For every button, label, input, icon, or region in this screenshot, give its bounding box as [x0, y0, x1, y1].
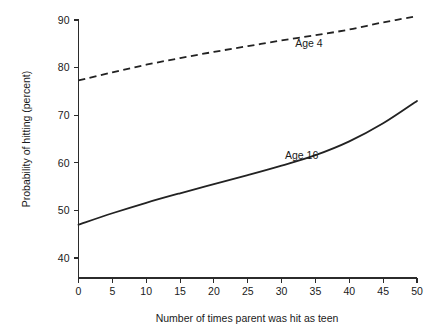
x-tick-label-50: 50 [411, 285, 423, 297]
x-axis-title: Number of times parent was hit as teen [156, 312, 339, 324]
x-tick-label-35: 35 [310, 285, 322, 297]
x-tick-label-5: 5 [109, 285, 115, 297]
y-axis-title: Probability of hitting (percent) [20, 71, 32, 208]
y-axis-ticks [74, 20, 79, 258]
series-label-age-4: Age 4 [295, 37, 323, 49]
x-tick-label-20: 20 [208, 285, 220, 297]
series-annotations: Age 4Age 16 [285, 37, 323, 162]
x-tick-label-40: 40 [343, 285, 355, 297]
series-line-age-4 [79, 16, 418, 80]
x-tick-label-30: 30 [276, 285, 288, 297]
y-tick-label-90: 90 [58, 14, 70, 26]
y-tick-label-50: 50 [58, 204, 70, 216]
x-axis-ticks [79, 278, 418, 283]
series-line-age-16 [79, 101, 418, 225]
line-chart-canvas: 405060708090 05101520253035404550 Age 4A… [0, 0, 437, 328]
x-tick-label-0: 0 [76, 285, 82, 297]
x-tick-label-15: 15 [174, 285, 186, 297]
data-series-group [79, 16, 418, 224]
series-label-age-16: Age 16 [285, 149, 318, 161]
x-axis-tick-labels: 05101520253035404550 [76, 285, 423, 297]
x-tick-label-25: 25 [242, 285, 254, 297]
y-axis-tick-labels: 405060708090 [58, 14, 70, 264]
x-tick-label-45: 45 [377, 285, 389, 297]
y-tick-label-80: 80 [58, 61, 70, 73]
chart-figure: 405060708090 05101520253035404550 Age 4A… [0, 0, 437, 328]
y-tick-label-70: 70 [58, 109, 70, 121]
x-tick-label-10: 10 [140, 285, 152, 297]
y-tick-label-40: 40 [58, 252, 70, 264]
y-tick-label-60: 60 [58, 157, 70, 169]
